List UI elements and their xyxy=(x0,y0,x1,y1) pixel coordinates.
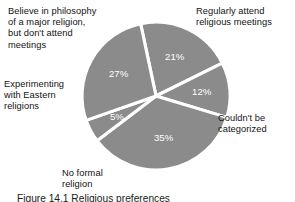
pie-slice-value: 21% xyxy=(165,51,185,62)
pie-slice-value: 27% xyxy=(109,68,129,79)
pie-chart-figure: 21%12%35%5%27% Believe in philosophy of … xyxy=(0,0,295,202)
pie-slice-value: 35% xyxy=(154,132,174,143)
slice-label-regularly-attend: Regularly attend religious meetings xyxy=(196,6,292,28)
slice-label-couldnt-be-categorized: Couldn't be categorized xyxy=(218,113,294,135)
slice-label-philosophy: Believe in philosophy of a major religio… xyxy=(8,6,134,51)
figure-caption: Figure 14.1 Religious preferences xyxy=(17,193,285,202)
pie-slice-value: 12% xyxy=(192,86,212,97)
pie-slice-value: 5% xyxy=(110,111,124,122)
slice-label-no-formal-religion: No formal religion xyxy=(62,168,142,190)
slice-label-eastern-religions: Experimenting with Eastern religions xyxy=(4,79,80,113)
